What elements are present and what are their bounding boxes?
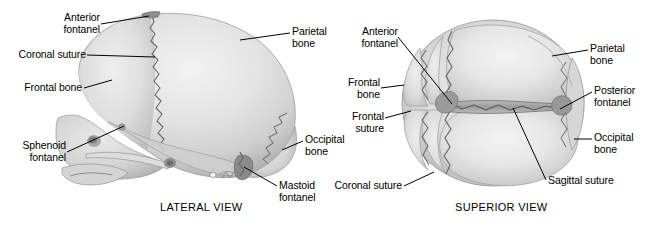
lateral-label-anterior-fontanel: Anterior fontanel [0, 12, 100, 35]
superior-skull-group [402, 20, 584, 186]
lateral-label-sphenoid-fontanel: Sphenoid fontanel [0, 140, 66, 163]
superior-parietal-left [447, 25, 579, 106]
lateral-mastoid-foramen [210, 173, 216, 178]
leader-sup-coronal-suture [404, 172, 434, 186]
leader-sup-frontal-bone [381, 85, 404, 88]
superior-label-anterior-fontanel: Anterior fontanel [300, 26, 398, 49]
lateral-view-caption: LATERAL VIEW [160, 201, 242, 213]
superior-label-frontal-bone: Frontal bone [322, 77, 380, 100]
superior-label-frontal-suture: Frontal suture [326, 111, 384, 134]
infant-skull-figure: Anterior fontanel Coronal suture Frontal… [0, 0, 657, 230]
superior-label-occipital-bone: Occipital bone [594, 132, 656, 155]
lateral-label-coronal-suture: Coronal suture [0, 49, 86, 61]
lateral-label-frontal-bone: Frontal bone [0, 82, 82, 94]
lateral-acoustic-meatus-inner [167, 161, 173, 166]
superior-label-coronal-suture: Coronal suture [318, 180, 402, 192]
superior-label-posterior-fontanel: Posterior fontanel [594, 85, 656, 108]
superior-view-caption: SUPERIOR VIEW [455, 201, 548, 213]
lateral-label-occipital-bone: Occipital bone [305, 134, 361, 157]
superior-posterior-fontanel [552, 96, 572, 115]
superior-label-parietal-bone: Parietal bone [590, 43, 652, 66]
superior-label-sagittal-suture: Sagittal suture [548, 175, 648, 187]
